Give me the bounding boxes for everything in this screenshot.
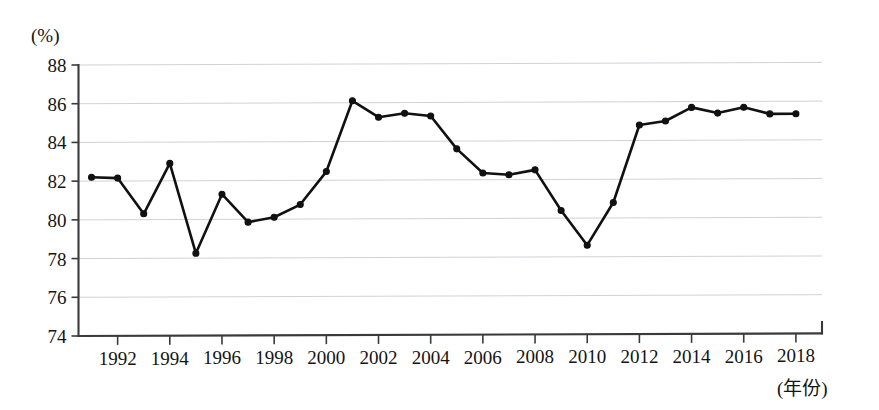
y-tick-label: 80	[48, 210, 67, 231]
y-axis-ticks-group: 7476788082848688	[48, 55, 79, 347]
data-point-marker	[297, 202, 303, 208]
line-chart: (%) (年份) 7476788082848688 19921994199619…	[0, 0, 879, 410]
y-tick-label: 76	[48, 287, 67, 308]
x-tick-label: 2016	[725, 346, 763, 367]
data-point-marker	[454, 146, 460, 152]
data-point-marker	[506, 172, 512, 178]
x-tick-label: 2008	[516, 346, 554, 367]
data-point-marker	[141, 211, 147, 217]
gridline-y	[79, 256, 823, 259]
data-point-marker	[584, 242, 590, 248]
gridline-y	[79, 101, 823, 104]
chart-plot-area: 7476788082848688 19921994199619982000200…	[0, 0, 879, 410]
data-point-marker	[662, 118, 668, 124]
data-point-marker	[376, 114, 382, 120]
y-tick-label: 82	[48, 171, 67, 192]
data-markers-group	[89, 98, 799, 257]
x-tick-label: 2014	[673, 346, 712, 367]
y-tick-label: 74	[48, 326, 68, 347]
data-point-marker	[793, 111, 799, 117]
x-tick-label: 1998	[255, 347, 293, 368]
data-point-marker	[480, 170, 486, 176]
data-point-marker	[167, 160, 173, 166]
data-point-marker	[271, 214, 277, 220]
x-axis-line	[79, 333, 823, 336]
data-point-marker	[428, 113, 434, 119]
x-tick-label: 2000	[307, 347, 345, 368]
data-point-marker	[323, 169, 329, 175]
data-point-marker	[89, 174, 95, 180]
x-tick-label: 2018	[777, 345, 815, 366]
x-tick-label: 2004	[412, 347, 451, 368]
data-point-marker	[715, 110, 721, 116]
x-tick-label: 2006	[464, 347, 502, 368]
gridline-y	[79, 62, 823, 65]
y-tick-label: 78	[48, 249, 67, 270]
data-point-marker	[115, 175, 121, 181]
x-tick-label: 1992	[99, 348, 137, 369]
y-tick-label: 86	[48, 94, 67, 115]
x-tick-label: 1994	[151, 348, 190, 369]
data-line-series-0	[92, 101, 796, 254]
data-point-marker	[767, 111, 773, 117]
data-point-marker	[610, 200, 616, 206]
data-point-marker	[636, 122, 642, 128]
data-point-marker	[741, 104, 747, 110]
data-point-marker	[402, 110, 408, 116]
data-point-marker	[689, 104, 695, 110]
data-point-marker	[193, 250, 199, 256]
gridline-y	[79, 217, 823, 220]
gridline-y	[79, 179, 823, 182]
data-series-group	[92, 101, 796, 254]
data-point-marker	[245, 219, 251, 225]
x-tick-label: 2012	[620, 346, 658, 367]
y-tick-label: 88	[48, 55, 67, 76]
x-tick-label: 1996	[203, 347, 241, 368]
gridlines-group	[79, 62, 823, 336]
gridline-y	[79, 295, 823, 298]
y-tick-label: 84	[48, 132, 68, 153]
x-tick-label: 2002	[360, 347, 398, 368]
x-tick-label: 2010	[568, 346, 606, 367]
data-point-marker	[558, 207, 564, 213]
data-point-marker	[219, 191, 225, 197]
x-axis-ticks-group: 1992199419961998200020022004200620082010…	[99, 333, 815, 368]
data-point-marker	[349, 98, 355, 104]
data-point-marker	[532, 167, 538, 173]
